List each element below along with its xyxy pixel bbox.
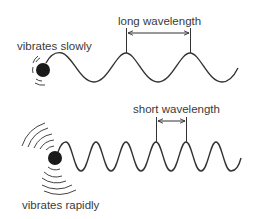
long-wave [46, 53, 238, 82]
short-wavelength-marker [157, 117, 187, 142]
ball-icon [48, 151, 62, 165]
wave-diagram [0, 0, 256, 219]
bottom-vibration-source [22, 123, 76, 194]
long-wavelength-marker [127, 28, 191, 53]
short-wave [58, 142, 241, 171]
ball-icon [36, 63, 50, 77]
